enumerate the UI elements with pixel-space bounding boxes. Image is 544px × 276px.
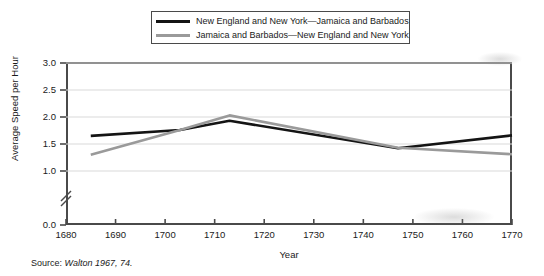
chart-legend: New England and New York—Jamaica and Bar… (151, 11, 410, 44)
y-tick-label: 2.0 (30, 112, 56, 122)
x-tick-label: 1710 (195, 230, 235, 240)
y-tick-label: 1.0 (30, 166, 56, 176)
x-tick-label: 1740 (343, 230, 383, 240)
legend-swatch-series-2 (156, 34, 190, 37)
source-citation: Walton 1967, 74. (65, 258, 133, 268)
x-tick-label: 1730 (294, 230, 334, 240)
source-caption: Source: Walton 1967, 74. (31, 258, 132, 268)
y-tick-label: 0.0 (30, 220, 56, 230)
x-tick-label: 1720 (244, 230, 284, 240)
x-tick-label: 1770 (492, 230, 532, 240)
chart-figure: New England and New York—Jamaica and Bar… (0, 0, 544, 276)
legend-label-series-2: Jamaica and Barbados—New England and New… (196, 30, 409, 40)
source-label: Source: (31, 258, 62, 268)
legend-label-series-1: New England and New York—Jamaica and Bar… (196, 16, 409, 26)
y-tick-label: 3.0 (30, 58, 56, 68)
plot-area (66, 62, 512, 225)
y-tick-label: 2.5 (30, 85, 56, 95)
legend-entry-series-2: Jamaica and Barbados—New England and New… (156, 28, 409, 42)
y-axis-title: Average Speed per Hour (9, 49, 20, 169)
y-tick-label: 1.5 (30, 139, 56, 149)
x-tick-label: 1760 (442, 230, 482, 240)
legend-swatch-series-1 (156, 20, 190, 23)
x-tick-label: 1690 (96, 230, 136, 240)
x-tick-label: 1680 (46, 230, 86, 240)
legend-entry-series-1: New England and New York—Jamaica and Bar… (156, 14, 409, 28)
x-tick-label: 1750 (393, 230, 433, 240)
x-tick-label: 1700 (145, 230, 185, 240)
x-axis-title: Year (249, 249, 329, 260)
